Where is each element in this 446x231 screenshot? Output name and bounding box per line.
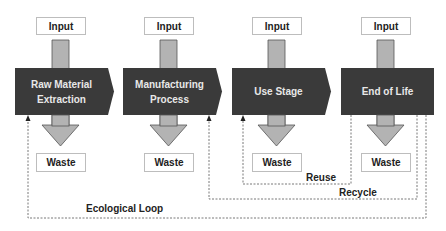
waste-box-4: Waste	[361, 153, 411, 172]
ecological-loop-label: Ecological Loop	[86, 203, 163, 214]
stage-label-4: End of Life	[341, 68, 434, 115]
stage-label-2-line2: Process	[150, 92, 189, 107]
recycle-arrowhead-icon	[207, 115, 212, 121]
waste-box-1: Waste	[36, 153, 86, 172]
input-box-3: Input	[252, 17, 302, 35]
stage-label-3-line1: Use Stage	[254, 84, 302, 99]
stage-label-1: Raw Material Extraction	[15, 68, 108, 115]
reuse-arrowhead-icon	[241, 115, 246, 121]
ecological-arrowhead-icon	[26, 115, 31, 121]
stage-label-1-line2: Extraction	[37, 92, 86, 107]
reuse-label: Reuse	[306, 172, 336, 183]
input-box-2: Input	[144, 17, 194, 35]
stage-label-2-line1: Manufacturing	[135, 77, 204, 92]
recycle-label: Recycle	[339, 187, 377, 198]
input-box-1: Input	[36, 17, 86, 35]
input-box-4: Input	[361, 17, 411, 35]
stage-label-2: Manufacturing Process	[123, 68, 216, 115]
stage-label-1-line1: Raw Material	[31, 77, 92, 92]
stage-label-4-line1: End of Life	[362, 84, 414, 99]
waste-box-2: Waste	[144, 153, 194, 172]
stage-label-3: Use Stage	[232, 68, 325, 115]
waste-box-3: Waste	[252, 153, 302, 172]
